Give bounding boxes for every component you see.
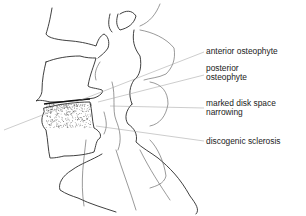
- lower-vertebra-outline: [42, 102, 101, 158]
- leader-anterior-osteophyte: [4, 52, 204, 130]
- leader-discogenic-sclerosis: [96, 126, 204, 141]
- leader-posterior-osteophyte: [98, 75, 204, 102]
- spine-diagram: anterior osteophyte posterior osteophyte…: [0, 0, 306, 216]
- spinous-outline: [95, 4, 174, 188]
- label-discogenic-sclerosis: discogenic sclerosis: [206, 137, 280, 146]
- leader-disk-narrowing: [110, 106, 204, 108]
- lower-bone-outline: [60, 154, 117, 212]
- upper-vertebra-outline: [46, 8, 109, 58]
- label-posterior-osteophyte: posterior osteophyte: [206, 64, 247, 82]
- middle-vertebra-outline: [36, 56, 103, 102]
- label-anterior-osteophyte: anterior osteophyte: [206, 47, 278, 56]
- label-marked-disk-space-narrowing: marked disk space narrowing: [206, 99, 276, 117]
- lower-bone-inner: [82, 140, 170, 210]
- sclerosis-stipple: [46, 104, 92, 129]
